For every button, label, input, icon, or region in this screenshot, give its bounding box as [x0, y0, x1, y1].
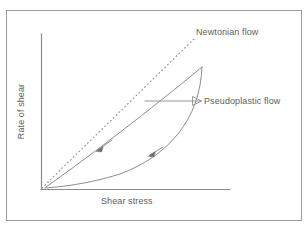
- annotation-pseudoplastic-flow: Pseudoplastic flow: [204, 96, 280, 107]
- x-axis-label: Shear stress: [101, 196, 153, 207]
- y-axis-label: Rate of shear: [16, 77, 27, 147]
- figure-rheogram: Newtonian flow Pseudoplastic flow Shear …: [0, 0, 308, 231]
- figure-canvas: [0, 0, 308, 231]
- annotation-newtonian-flow: Newtonian flow: [196, 27, 258, 38]
